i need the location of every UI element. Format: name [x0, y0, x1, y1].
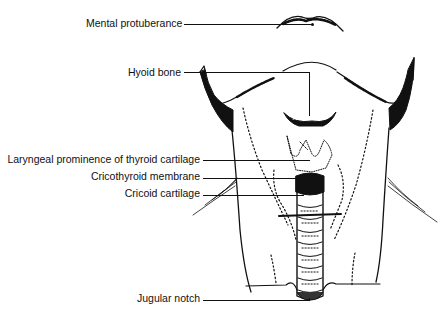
- label-mental-protuberance: Mental protuberance: [86, 17, 181, 29]
- right-clavicle-lines: [388, 178, 437, 222]
- leader-mental-protuberance: [184, 24, 312, 25]
- leader-cricoid-cartilage: [203, 195, 304, 196]
- label-laryngeal-prominence: Laryngeal prominence of thyroid cartilag…: [4, 153, 200, 165]
- leader-hyoid-bone: [184, 72, 310, 73]
- sternal-base: [246, 283, 380, 300]
- leader-jugular-notch: [203, 300, 310, 301]
- label-hyoid-bone: Hyoid bone: [116, 66, 181, 78]
- trachea: [279, 173, 341, 300]
- label-cricoid-cartilage: Cricoid cartilage: [80, 187, 200, 199]
- label-jugular-notch: Jugular notch: [100, 292, 200, 304]
- dotted-guides: [243, 108, 373, 285]
- leader-laryngeal-prominence: [203, 160, 310, 161]
- pointer-dot: [311, 23, 314, 26]
- leader-jugular-notch-vertical: [309, 298, 310, 301]
- leader-hyoid-bone-vertical: [309, 72, 310, 116]
- leader-cricothyroid-membrane: [203, 178, 304, 179]
- thyroid-cartilage: [287, 136, 332, 172]
- chin-contour: [218, 62, 394, 104]
- anatomy-diagram: Mental protuberance Hyoid bone Laryngeal…: [0, 0, 446, 315]
- right-mandible: [376, 58, 414, 282]
- label-cricothyroid-membrane: Cricothyroid membrane: [60, 170, 200, 182]
